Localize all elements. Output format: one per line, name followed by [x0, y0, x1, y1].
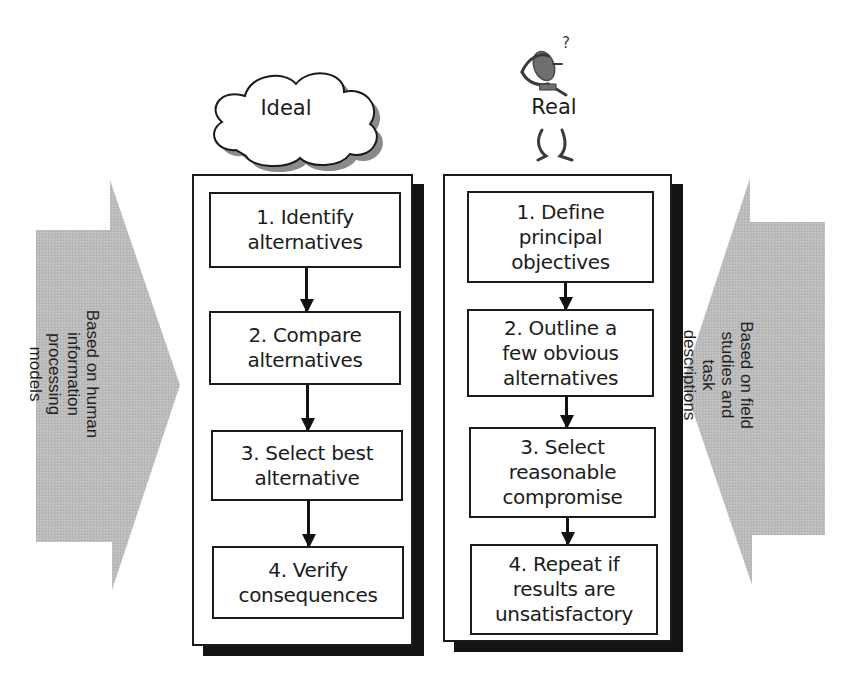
real-arrow-1-2	[564, 283, 567, 309]
real-step-4: 4. Repeat if results are unsatisfactory	[470, 544, 658, 635]
ideal-step-3: 3. Select best alternative	[211, 430, 403, 501]
ideal-label: Ideal	[246, 96, 326, 120]
ideal-arrow-1-2	[305, 268, 308, 311]
ideal-step-1: 1. Identify alternatives	[209, 192, 401, 268]
real-label: Real	[516, 95, 592, 119]
real-step-2: 2. Outline a few obvious alternatives	[467, 309, 654, 397]
ideal-step-2: 2. Compare alternatives	[209, 311, 401, 385]
question-mark-icon: ?	[562, 34, 570, 52]
ideal-step-4: 4. Verify consequences	[212, 546, 404, 619]
ideal-arrow-3-4	[307, 501, 310, 546]
right-arrow-label: Based on field studies and task descript…	[680, 295, 756, 455]
real-step-1: 1. Define principal objectives	[467, 191, 654, 283]
left-arrow-label: Based on human information processing mo…	[26, 294, 102, 454]
real-arrow-2-3	[565, 397, 568, 427]
ideal-arrow-2-3	[306, 385, 309, 430]
real-arrow-3-4	[566, 518, 569, 544]
cloud-icon	[214, 73, 383, 172]
real-step-3: 3. Select reasonable compromise	[469, 427, 656, 518]
figure-caption-clipped	[230, 686, 680, 692]
